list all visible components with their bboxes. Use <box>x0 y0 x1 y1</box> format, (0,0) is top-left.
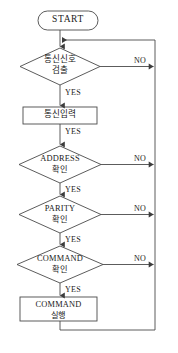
flowchart-canvas <box>0 0 178 353</box>
flowchart-diagram: START 통신신호 검출 통신입력 ADDRESS 확인 PARITY 확인 … <box>0 0 178 353</box>
node-address-check-shape <box>19 146 101 183</box>
node-parity-check-shape <box>19 196 101 233</box>
node-command-exec-shape <box>20 297 97 321</box>
node-signal-input-shape <box>23 107 97 124</box>
node-command-check-shape <box>17 246 103 283</box>
node-signal-detect-shape <box>20 48 100 85</box>
edge-exec-to-return <box>60 321 155 330</box>
node-start-shape <box>38 11 98 30</box>
